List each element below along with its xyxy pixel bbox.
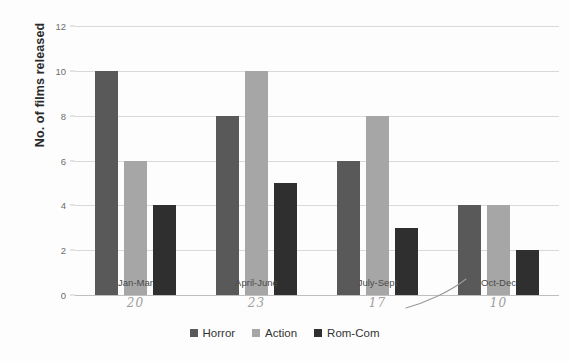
bar-horror-april-june	[216, 116, 239, 295]
y-axis-tick-label: 0	[61, 290, 66, 301]
plot-area: 024681012	[75, 26, 559, 295]
bar-rom-com-jan-mar	[153, 205, 176, 295]
bar-rom-com-july-sept	[395, 228, 418, 295]
handwritten-total-note: 17	[369, 296, 386, 310]
x-axis-category-label: Jan-Mar	[118, 277, 153, 288]
legend-item-horror[interactable]: Horror	[190, 327, 236, 339]
y-axis-title: No. of films released	[33, 0, 47, 185]
bar-action-april-june	[245, 71, 268, 295]
legend-label: Action	[265, 327, 297, 339]
x-axis-category-label: July-Sept	[358, 277, 398, 288]
bar-rom-com-oct-dec	[516, 250, 539, 295]
bar-action-jan-mar	[124, 161, 147, 296]
legend-swatch-icon	[252, 329, 260, 337]
handwritten-total-note: 20	[127, 296, 144, 310]
bar-horror-jan-mar	[95, 71, 118, 295]
bar-action-july-sept	[366, 116, 389, 295]
y-axis-tick-label: 4	[61, 200, 66, 211]
y-axis-tick-label: 6	[61, 155, 66, 166]
bar-horror-july-sept	[337, 161, 360, 296]
y-axis-tick-label: 8	[61, 110, 66, 121]
bar-horror-oct-dec	[458, 205, 481, 295]
gridline	[75, 295, 559, 296]
legend-swatch-icon	[190, 329, 198, 337]
legend: HorrorActionRom-Com	[0, 327, 569, 339]
legend-label: Horror	[203, 327, 236, 339]
bar-chart: No. of films released 024681012 Jan-MarA…	[0, 0, 569, 361]
y-axis-tick-label: 2	[61, 245, 66, 256]
y-axis-tick-label: 12	[55, 21, 66, 32]
bars-layer	[75, 26, 559, 295]
y-axis-tick-label: 10	[55, 65, 66, 76]
legend-item-rom-com[interactable]: Rom-Com	[314, 327, 379, 339]
x-axis-category-label: Oct-Dec	[481, 277, 516, 288]
legend-swatch-icon	[314, 329, 322, 337]
x-axis-category-label: April-June	[235, 277, 278, 288]
legend-label: Rom-Com	[327, 327, 379, 339]
legend-item-action[interactable]: Action	[252, 327, 297, 339]
handwritten-total-note: 10	[490, 296, 507, 310]
handwritten-total-note: 23	[248, 296, 265, 310]
